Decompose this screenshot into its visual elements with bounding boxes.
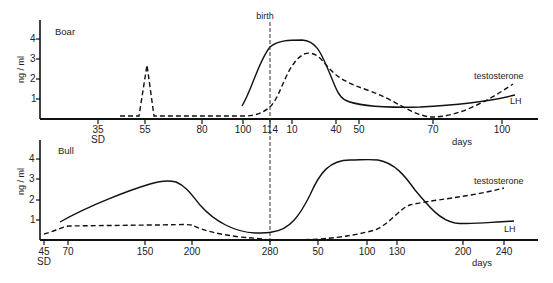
- lh-line: [60, 160, 514, 233]
- x-axis-label: days: [452, 136, 472, 147]
- x-tick-label: 40: [330, 124, 342, 135]
- x-tick-label: 100: [494, 124, 511, 135]
- x-tick-label: 100: [235, 124, 252, 135]
- testosterone-line: [120, 53, 513, 117]
- boar-chart: 4 3 2 1 ng / ml Boar 35 55 80 100 114 10: [16, 11, 538, 147]
- panel-label: Bull: [58, 145, 74, 156]
- lh-label: LH: [510, 96, 522, 106]
- x-tick-label: 200: [184, 246, 201, 257]
- sd-label: SD: [91, 134, 105, 145]
- x-axis-label: days: [472, 257, 492, 268]
- testosterone-label: testosterone: [474, 176, 524, 186]
- testosterone-label: testosterone: [474, 71, 524, 81]
- y-tick-label: 1: [31, 93, 37, 104]
- x-tick-label: 50: [353, 124, 365, 135]
- x-tick-label: 50: [312, 246, 324, 257]
- y-axis-label: ng / ml: [16, 168, 26, 195]
- birth-label: birth: [256, 11, 274, 21]
- x-tick-label: 55: [139, 124, 151, 135]
- y-tick-label: 4: [29, 153, 35, 164]
- y-tick-label: 3: [30, 53, 36, 64]
- sd-label: SD: [37, 256, 51, 267]
- y-tick-label: 2: [29, 194, 35, 205]
- lh-label: LH: [504, 224, 516, 234]
- x-tick-label: 100: [359, 246, 376, 257]
- panel-label: Boar: [55, 26, 75, 37]
- y-tick-label: 3: [29, 173, 35, 184]
- x-tick-label: 130: [389, 246, 406, 257]
- x-tick-label: 70: [427, 124, 439, 135]
- x-tick-label: 80: [196, 124, 208, 135]
- bull-chart: 4 3 2 1 ng / ml Bull 45 70 150 200 280 5…: [16, 140, 538, 268]
- figure: 4 3 2 1 ng / ml Boar 35 55 80 100 114 10: [0, 0, 553, 283]
- x-tick-label: 150: [137, 246, 154, 257]
- x-tick-label: 240: [496, 246, 513, 257]
- y-tick-label: 1: [30, 214, 36, 225]
- y-tick-label: 2: [30, 73, 36, 84]
- x-tick-label: 280: [262, 246, 279, 257]
- y-tick-label: 4: [30, 33, 36, 44]
- y-axis-label: ng / ml: [16, 56, 26, 83]
- x-tick-label: 10: [286, 124, 298, 135]
- x-tick-label: 70: [62, 246, 74, 257]
- x-tick-label: 200: [455, 246, 472, 257]
